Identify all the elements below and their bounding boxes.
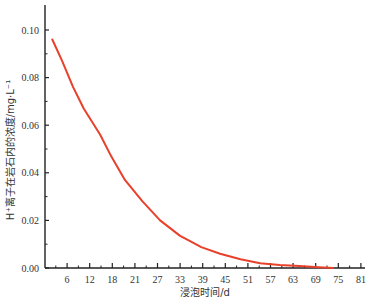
x-tick-label: 57 [266, 274, 276, 285]
x-tick-label: 21 [130, 274, 140, 285]
y-tick-label: 0.08 [22, 72, 40, 83]
x-tick-label: 18 [107, 274, 117, 285]
axes [45, 5, 365, 268]
x-tick-label: 81 [356, 274, 366, 285]
x-tick-label: 69 [311, 274, 321, 285]
x-tick-label: 63 [288, 274, 298, 285]
y-tick-label: 0.04 [22, 167, 40, 178]
y-axis-label: H⁺离子在岩石内的浓度/mg·L⁻¹ [4, 80, 16, 220]
x-tick-label: 45 [220, 274, 230, 285]
concentration-curve [52, 40, 333, 269]
x-tick-label: 75 [333, 274, 343, 285]
y-tick-label: 0.10 [22, 25, 40, 36]
y-tick-label: 0.00 [22, 263, 40, 274]
x-tick-label: 33 [175, 274, 185, 285]
y-tick-label: 0.06 [22, 120, 40, 131]
x-tick-label: 6 [65, 274, 70, 285]
x-tick-label: 12 [85, 274, 95, 285]
line-chart: 0.000.020.040.060.080.10 612182127333945… [0, 0, 368, 307]
x-axis-label: 浸泡时间/d [180, 286, 230, 298]
x-tick-label: 51 [243, 274, 253, 285]
x-tick-label: 39 [198, 274, 208, 285]
x-ticks: 612182127333945515763697581 [56, 263, 366, 285]
y-tick-label: 0.02 [22, 215, 40, 226]
x-tick-label: 27 [153, 274, 163, 285]
